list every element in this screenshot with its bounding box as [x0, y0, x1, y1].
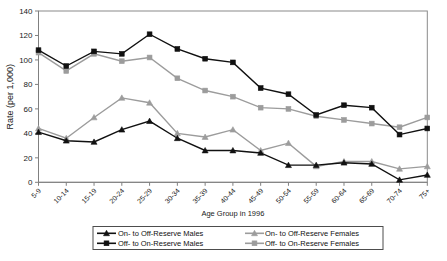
- data-point: [147, 118, 153, 123]
- x-axis-tick-label: 25-29: [136, 187, 154, 205]
- x-axis-tick-label: 40-44: [219, 187, 237, 205]
- x-axis-tick-label: 5-9: [30, 187, 42, 199]
- y-axis-tick-label: 20: [24, 154, 33, 163]
- data-point: [64, 69, 69, 74]
- y-axis-tick-label: 80: [24, 80, 33, 89]
- x-axis: 5-910-1415-1920-2425-2930-3435-3940-4445…: [30, 182, 431, 204]
- x-axis-tick-label: 45-49: [247, 187, 265, 205]
- x-axis-tick-label: 10-14: [52, 187, 70, 205]
- data-point: [119, 51, 124, 56]
- data-point: [314, 113, 319, 118]
- y-axis-tick-label: 0: [28, 178, 33, 187]
- legend-label: Off- to On-Reserve Females: [265, 239, 359, 248]
- data-point: [231, 94, 236, 99]
- legend-label: On- to Off-Reserve Females: [265, 229, 359, 238]
- x-axis-tick-label: 65-69: [358, 187, 376, 205]
- data-point: [119, 59, 124, 64]
- line-chart: 020406080100120140Rate (per 1,000)5-910-…: [0, 0, 447, 261]
- data-point: [425, 126, 430, 131]
- data-point: [203, 56, 208, 61]
- x-axis-title: Age Group in 1996: [201, 209, 264, 218]
- data-point: [286, 92, 291, 97]
- legend-marker: [104, 241, 109, 246]
- legend-label: On- to Off-Reserve Males: [118, 229, 204, 238]
- series-line: [39, 98, 428, 169]
- y-axis: 020406080100120140: [19, 7, 38, 187]
- y-axis-tick-label: 60: [24, 105, 33, 114]
- data-point: [174, 135, 180, 140]
- data-point: [286, 106, 291, 111]
- data-point: [231, 60, 236, 65]
- data-point: [397, 125, 402, 130]
- legend-marker: [252, 241, 257, 246]
- y-axis-title: Rate (per 1,000): [5, 64, 15, 130]
- x-axis-tick-label: 70-74: [386, 187, 404, 205]
- x-axis-tick-label: 55-59: [302, 187, 320, 205]
- x-axis-tick-label: 20-24: [108, 187, 126, 205]
- data-point: [258, 105, 263, 110]
- data-point: [36, 48, 41, 53]
- data-point: [147, 32, 152, 37]
- data-point: [147, 55, 152, 60]
- legend-label: Off- to On-Reserve Males: [118, 239, 204, 248]
- x-axis-tick-label: 15-19: [80, 187, 98, 205]
- data-point: [64, 64, 69, 69]
- y-axis-tick-label: 40: [24, 129, 33, 138]
- chart-container: 020406080100120140Rate (per 1,000)5-910-…: [0, 0, 447, 261]
- y-axis-tick-label: 140: [19, 7, 33, 16]
- data-point: [342, 103, 347, 108]
- data-point: [369, 105, 374, 110]
- data-point: [425, 115, 430, 120]
- x-axis-tick-label: 60-64: [330, 187, 348, 205]
- data-point: [258, 86, 263, 91]
- y-axis-tick-label: 100: [19, 56, 33, 65]
- data-point: [369, 121, 374, 126]
- data-point: [342, 117, 347, 122]
- y-axis-tick-label: 120: [19, 31, 33, 40]
- data-point: [230, 127, 236, 132]
- x-axis-tick-label: 50-54: [275, 187, 293, 205]
- data-point: [175, 47, 180, 52]
- data-point: [203, 88, 208, 93]
- data-point: [92, 49, 97, 54]
- x-axis-tick-label: 30-34: [163, 187, 181, 205]
- x-axis-tick-label: 35-39: [191, 187, 209, 205]
- data-point: [285, 140, 291, 145]
- data-point: [397, 132, 402, 137]
- x-axis-tick-label: 75+: [418, 187, 431, 200]
- data-point: [175, 76, 180, 81]
- legend: On- to Off-Reserve MalesOn- to Off-Reser…: [93, 227, 383, 250]
